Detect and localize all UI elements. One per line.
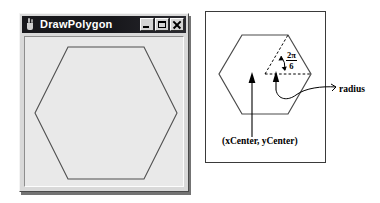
maximize-button[interactable] [155,18,169,31]
angle-fraction-label: 2π 6 [286,51,297,70]
angle-denominator: 6 [286,62,297,71]
radius-leader-tick [331,84,336,91]
window-controls [140,18,185,31]
window-title: DrawPolygon [40,16,140,33]
draw-polygon-window[interactable]: DrawPolygon [19,13,189,192]
close-button[interactable] [170,18,184,31]
minimize-button[interactable] [140,18,154,31]
java-coffee-cup-icon [24,18,37,31]
drawing-canvas[interactable] [24,36,184,187]
maximize-icon [158,21,166,28]
minimize-icon [143,26,149,28]
radius-label: radius [339,84,365,94]
rendered-hexagon [25,37,184,187]
title-bar[interactable]: DrawPolygon [22,16,186,33]
angle-numerator: 2π [286,51,297,60]
center-label: (xCenter, yCenter) [222,136,298,146]
